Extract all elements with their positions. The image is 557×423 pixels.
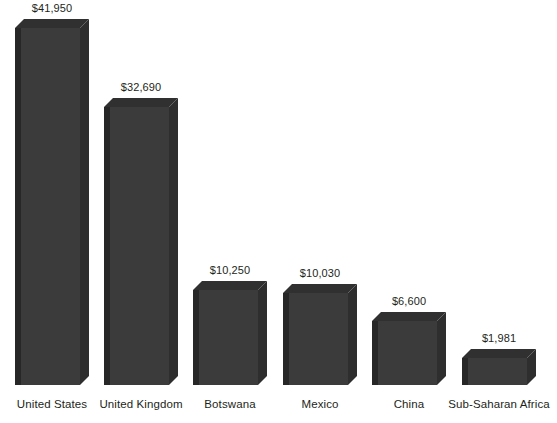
bar-front-face — [283, 293, 348, 385]
bar-group-united-states: $41,950 United States — [15, 19, 89, 385]
bar-group-botswana: $10,250 Botswana — [193, 281, 267, 385]
bar-china[interactable] — [372, 312, 446, 385]
bar-left-edge — [462, 358, 468, 385]
bar-chart: $41,950 United States $32,690 United Kin… — [0, 0, 557, 423]
bar-value-label: $41,950 — [15, 2, 89, 14]
bar-value-label: $32,690 — [104, 81, 178, 93]
bar-top-face — [104, 98, 178, 107]
bar-side-face — [80, 19, 89, 385]
bar-mexico[interactable] — [283, 284, 357, 385]
bar-left-edge — [193, 290, 199, 385]
bar-front-face — [193, 290, 258, 385]
bar-left-edge — [283, 293, 289, 385]
bar-group-mexico: $10,030 Mexico — [283, 284, 357, 385]
bar-value-label: $10,250 — [193, 264, 267, 276]
bar-group-united-kingdom: $32,690 United Kingdom — [104, 98, 178, 385]
bar-group-sub-saharan-africa: $1,981 Sub-Saharan Africa — [462, 349, 536, 385]
bar-side-face — [169, 98, 178, 385]
bar-top-face — [193, 281, 267, 290]
bar-value-label: $6,600 — [372, 295, 446, 307]
bar-sub-saharan-africa[interactable] — [462, 349, 536, 385]
bar-side-face — [437, 312, 446, 385]
bar-top-face — [283, 284, 357, 293]
bar-group-china: $6,600 China — [372, 312, 446, 385]
bar-top-face — [372, 312, 446, 321]
bar-botswana[interactable] — [193, 281, 267, 385]
bar-front-face — [15, 28, 80, 385]
bar-value-label: $10,030 — [283, 267, 357, 279]
bar-front-face — [372, 321, 437, 385]
bar-left-edge — [372, 321, 378, 385]
bar-front-face — [462, 358, 527, 385]
bar-left-edge — [15, 28, 21, 385]
bar-top-face — [462, 349, 536, 358]
bar-category-label: Sub-Saharan Africa — [434, 398, 557, 410]
bar-side-face — [258, 281, 267, 385]
bar-side-face — [348, 284, 357, 385]
bar-left-edge — [104, 107, 110, 385]
bar-united-kingdom[interactable] — [104, 98, 178, 385]
bar-top-face — [15, 19, 89, 28]
bar-front-face — [104, 107, 169, 385]
bar-united-states[interactable] — [15, 19, 89, 385]
bar-value-label: $1,981 — [462, 332, 536, 344]
